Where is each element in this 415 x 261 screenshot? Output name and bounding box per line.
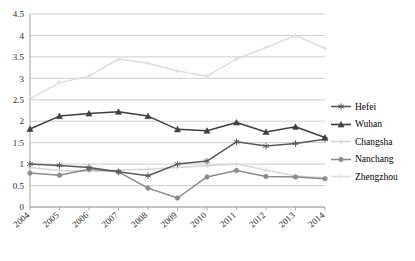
series-zhengzhou — [27, 33, 327, 102]
data-point-marker — [234, 168, 238, 172]
data-point-marker — [145, 167, 150, 172]
y-axis-tick-label: 1.5 — [13, 138, 25, 148]
y-axis-tick-label: 3 — [20, 74, 25, 84]
data-point-marker — [339, 157, 343, 161]
legend-item-changsha[interactable]: Changsha — [330, 133, 415, 151]
chart-legend: HefeiWuhanChangshaNanchangZhengzhou — [330, 98, 415, 186]
x-axis-tick-label: 2004 — [11, 210, 31, 230]
y-axis-tick-label: 2.5 — [13, 95, 25, 105]
data-point-marker — [323, 176, 327, 180]
y-axis-tick-label: 4.5 — [13, 9, 25, 19]
data-point-marker — [293, 175, 297, 179]
data-point-marker — [175, 68, 180, 73]
y-axis-tick-label: 1 — [20, 159, 25, 169]
data-point-marker — [57, 168, 62, 173]
legend-swatch-icon — [330, 119, 352, 130]
legend-swatch-icon — [330, 101, 352, 112]
legend-item-label: Hefei — [355, 102, 376, 112]
line-chart: 00.511.522.533.544.520042005200620072008… — [0, 0, 415, 261]
x-axis-tick-label: 2013 — [277, 210, 297, 230]
data-point-marker — [28, 171, 32, 175]
data-point-marker — [322, 46, 327, 51]
x-axis-tick-label: 2010 — [188, 210, 208, 230]
x-axis-tick-label: 2006 — [70, 210, 90, 230]
data-point-marker — [146, 186, 150, 190]
legend-swatch-icon — [330, 171, 352, 182]
data-point-marker — [205, 175, 209, 179]
data-point-marker — [263, 45, 268, 50]
y-axis-tick-label: 4 — [20, 31, 25, 41]
series-wuhan — [27, 109, 328, 140]
data-point-marker — [264, 174, 268, 178]
legend-swatch-icon — [330, 136, 352, 147]
legend-item-zhengzhou[interactable]: Zhengzhou — [330, 168, 415, 186]
x-axis-tick-label: 2009 — [159, 210, 179, 230]
data-point-marker — [234, 162, 239, 167]
x-axis-tick-label: 2008 — [129, 210, 149, 230]
x-axis-tick-label: 2011 — [218, 210, 238, 229]
x-axis-tick-label: 2014 — [306, 210, 326, 230]
x-axis-tick-label: 2012 — [247, 210, 267, 229]
data-point-marker — [234, 120, 240, 126]
x-axis-tick-label: 2007 — [100, 210, 120, 230]
legend-item-nanchang[interactable]: Nanchang — [330, 151, 415, 169]
y-axis-tick-label: 0.5 — [13, 181, 25, 191]
data-point-marker — [175, 196, 179, 200]
legend-item-label: Nanchang — [355, 154, 394, 164]
data-point-marker — [338, 174, 343, 179]
legend-item-hefei[interactable]: Hefei — [330, 98, 415, 116]
data-point-marker — [293, 33, 298, 38]
data-point-marker — [145, 61, 150, 66]
legend-swatch-icon — [330, 154, 352, 165]
y-axis-tick-label: 3.5 — [13, 52, 25, 62]
data-point-marker — [263, 168, 268, 173]
y-axis-tick-label: 2 — [20, 116, 25, 126]
data-point-marker — [338, 139, 343, 144]
legend-item-label: Zhengzhou — [355, 172, 398, 182]
legend-item-label: Wuhan — [355, 119, 382, 129]
legend-item-wuhan[interactable]: Wuhan — [330, 116, 415, 134]
series-nanchang — [28, 167, 327, 200]
legend-item-label: Changsha — [355, 137, 392, 147]
data-point-marker — [57, 173, 61, 177]
x-axis-tick-label: 2005 — [41, 210, 61, 230]
